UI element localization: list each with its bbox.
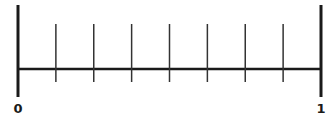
- end-label: 1: [316, 101, 325, 116]
- start-label: 0: [13, 101, 22, 116]
- number-line: 0 1: [0, 0, 332, 123]
- minor-ticks: [56, 24, 283, 82]
